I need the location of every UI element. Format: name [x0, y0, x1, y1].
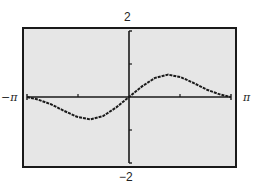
plot-area — [0, 0, 256, 183]
